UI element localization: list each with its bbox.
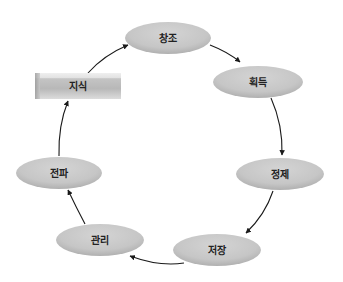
node-label-distribution: 전파	[50, 167, 69, 179]
knowledge-cycle-diagram: 지식 창조 획득 정제 저장 관리 전파	[0, 0, 343, 282]
arrow-management-to-distribution	[68, 190, 85, 224]
knowledge-box-edge	[35, 73, 40, 99]
node-creation: 창조	[125, 22, 211, 54]
node-label-acquisition: 획득	[249, 76, 267, 88]
node-label-knowledge: 지식	[69, 80, 87, 92]
node-refinement: 정제	[236, 158, 324, 190]
node-management: 관리	[56, 224, 144, 256]
arrow-refinement-to-storage	[246, 191, 273, 233]
node-label-refinement: 정제	[271, 168, 289, 180]
arrow-creation-to-acquisition	[210, 45, 240, 62]
node-distribution: 전파	[16, 157, 102, 189]
node-acquisition: 획득	[213, 66, 303, 98]
arrow-storage-to-management	[130, 256, 184, 264]
arrow-knowledge-to-creation	[88, 45, 128, 73]
node-label-creation: 창조	[159, 32, 177, 44]
arrow-acquisition-to-refinement	[271, 98, 282, 155]
node-storage: 저장	[173, 234, 261, 266]
node-label-management: 관리	[91, 234, 109, 246]
node-label-storage: 저장	[208, 244, 227, 256]
node-knowledge: 지식	[35, 73, 121, 99]
arrow-distribution-to-knowledge	[59, 101, 68, 156]
